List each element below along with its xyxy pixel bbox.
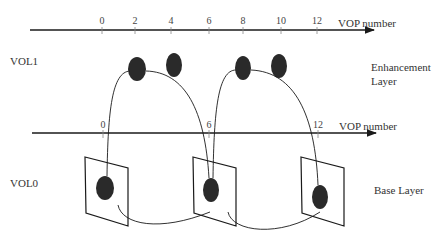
vol1-label: VOL1 [10, 55, 38, 68]
bottom-tick-0: 0 [101, 119, 106, 130]
top-axis [30, 27, 374, 34]
enh-vop-10 [271, 54, 287, 78]
top-tick-6: 6 [207, 15, 212, 26]
enhancement-layer-label-line2: Layer [371, 75, 397, 88]
enh-vop-8 [235, 56, 251, 80]
base-layer-label: Base Layer [374, 184, 424, 197]
bottom-axis-label: VOP number [339, 120, 397, 133]
enh-vop-2 [128, 57, 146, 81]
enhancement-layer-vops [128, 53, 287, 81]
top-tick-10: 10 [276, 15, 286, 26]
base-vop-6 [203, 178, 219, 202]
top-tick-8: 8 [241, 15, 246, 26]
top-axis-label: VOP number [338, 17, 396, 30]
prediction-arcs [107, 70, 320, 229]
bottom-tick-12: 12 [313, 119, 323, 130]
top-tick-2: 2 [133, 15, 138, 26]
top-tick-12: 12 [312, 15, 322, 26]
bottom-tick-6: 6 [207, 119, 212, 130]
base-vop-0 [96, 176, 114, 200]
enh-vop-4 [166, 53, 182, 77]
enhancement-layer-label-line1: Enhancement [371, 61, 431, 74]
top-tick-0: 0 [100, 15, 105, 26]
top-tick-4: 4 [169, 15, 174, 26]
base-layer-vops [96, 176, 328, 209]
vol0-label: VOL0 [10, 177, 38, 190]
base-vop-12 [312, 185, 328, 209]
